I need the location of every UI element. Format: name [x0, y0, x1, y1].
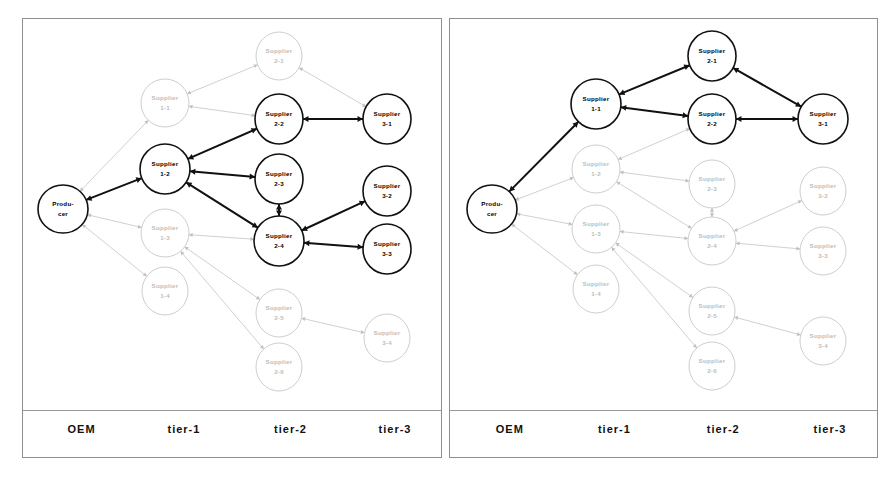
node-label-line1: Supplier — [699, 175, 726, 182]
edge-s2-4-to-s1-3 — [620, 230, 688, 240]
node-label-line1: Supplier — [374, 110, 401, 117]
edge-s2-1-to-s1-1 — [187, 64, 257, 94]
node-s3-2[interactable]: Supplier3-2 — [363, 166, 411, 216]
edge-s2-2-to-s1-2 — [618, 128, 690, 160]
node-label-line1: Supplier — [699, 110, 726, 117]
edge-s3-1-to-s2-2 — [736, 116, 798, 122]
node-s2-2[interactable]: Supplier2-2 — [688, 94, 736, 144]
node-label-line2: 2-5 — [274, 314, 284, 321]
node-label-line1: Supplier — [374, 329, 401, 336]
node-s1-2[interactable]: Supplier1-2 — [140, 144, 190, 194]
node-s1-4[interactable]: Supplier1-4 — [573, 265, 619, 313]
node-s1-4[interactable]: Supplier1-4 — [142, 267, 188, 315]
node-label-line2: 3-1 — [382, 120, 392, 127]
edge-s2-4-to-s2-3 — [276, 204, 282, 216]
edge-s3-4-to-s2-5 — [301, 317, 364, 334]
edge-s2-3-to-s1-2 — [190, 169, 255, 180]
node-s3-2[interactable]: Supplier3-2 — [800, 167, 846, 215]
node-s3-1[interactable]: Supplier3-1 — [363, 94, 411, 144]
left-tier-axis: OEMtier-1tier-2tier-3 — [23, 410, 441, 457]
node-label-line1: Supplier — [810, 242, 837, 249]
faded-node-group: Supplier1-2Supplier1-3Supplier1-4Supplie… — [572, 145, 846, 390]
node-label-line1: Supplier — [266, 304, 293, 311]
node-label-line1: Supplier — [266, 358, 293, 365]
node-s1-1[interactable]: Supplier1-1 — [141, 79, 189, 127]
node-s1-1[interactable]: Supplier1-1 — [571, 79, 621, 129]
edge-s2-4-to-s1-2 — [616, 182, 691, 229]
right-network-svg: Supplier1-2Supplier1-3Supplier1-4Supplie… — [450, 19, 877, 457]
node-s3-4[interactable]: Supplier3-4 — [364, 314, 410, 362]
tier-label-oem: OEM — [496, 423, 524, 435]
tier-label-tier-3: tier-3 — [379, 423, 412, 435]
figure-root: Supplier1-1Supplier1-3Supplier1-4Supplie… — [0, 0, 891, 479]
node-label-line2: 2-4 — [274, 242, 284, 249]
faded-edge-group — [512, 128, 802, 348]
edge-s1-2-to-producer — [515, 177, 573, 201]
node-label-line1: Supplier — [583, 280, 610, 287]
node-label-line2: 1-3 — [160, 234, 170, 241]
node-label-line2: 3-2 — [818, 192, 828, 199]
edge-s2-6-to-s1-3 — [181, 251, 264, 349]
node-producer[interactable]: Produ-cer — [38, 185, 88, 233]
tier-label-tier-2: tier-2 — [707, 423, 740, 435]
node-s3-3[interactable]: Supplier3-3 — [800, 227, 846, 275]
edge-s2-3-to-s1-2 — [620, 171, 689, 183]
node-s1-2[interactable]: Supplier1-2 — [572, 145, 620, 193]
node-label-line2: 3-4 — [818, 342, 828, 349]
node-label-line2: 1-4 — [160, 292, 170, 299]
edge-s2-4-to-s2-3 — [710, 208, 714, 217]
node-label-line2: 3-4 — [382, 339, 392, 346]
edge-s2-6-to-s1-3 — [612, 247, 697, 348]
node-s3-1[interactable]: Supplier3-1 — [798, 94, 848, 144]
edge-s1-4-to-producer — [82, 224, 147, 276]
node-s2-4[interactable]: Supplier2-4 — [254, 216, 304, 266]
edge-s2-2-to-s1-1 — [621, 105, 688, 118]
node-s3-3[interactable]: Supplier3-3 — [363, 224, 411, 274]
edge-s1-3-to-producer — [87, 214, 141, 229]
node-label-line2: 2-2 — [274, 120, 284, 127]
node-label-line2: 2-2 — [707, 120, 717, 127]
node-producer[interactable]: Produ-cer — [467, 185, 517, 233]
node-label-line1: Produ- — [52, 200, 73, 207]
node-s2-3[interactable]: Supplier2-3 — [689, 160, 735, 208]
node-s2-6[interactable]: Supplier2-6 — [689, 342, 735, 390]
node-label-line2: 2-4 — [707, 242, 717, 249]
active-edge-group — [509, 65, 801, 192]
node-s2-4[interactable]: Supplier2-4 — [688, 217, 736, 265]
node-label-line2: 2-1 — [274, 57, 284, 64]
edge-s3-2-to-s2-4 — [302, 201, 365, 231]
edge-s1-4-to-producer — [512, 224, 578, 275]
tier-label-tier-2: tier-2 — [274, 423, 307, 435]
tier-label-tier-1: tier-1 — [598, 423, 631, 435]
node-label-line1: Supplier — [810, 332, 837, 339]
node-s2-3[interactable]: Supplier2-3 — [255, 154, 303, 204]
node-s2-5[interactable]: Supplier2-5 — [689, 287, 735, 335]
node-s2-2[interactable]: Supplier2-2 — [255, 94, 303, 144]
node-s3-4[interactable]: Supplier3-4 — [800, 317, 846, 365]
node-label-line2: 2-3 — [274, 180, 284, 187]
node-s2-1[interactable]: Supplier2-1 — [688, 31, 736, 81]
node-label-line2: 1-4 — [591, 290, 601, 297]
active-node-group: Produ-cerSupplier1-1Supplier2-1Supplier2… — [467, 31, 848, 233]
node-s2-6[interactable]: Supplier2-6 — [256, 343, 302, 391]
node-label-line1: Supplier — [810, 182, 837, 189]
node-label-line1: Supplier — [699, 302, 726, 309]
edge-s3-1-to-s2-1 — [299, 68, 366, 107]
node-s2-1[interactable]: Supplier2-1 — [256, 32, 302, 80]
node-s2-5[interactable]: Supplier2-5 — [256, 289, 302, 337]
node-label-line1: Supplier — [374, 240, 401, 247]
edge-s1-2-to-producer — [86, 177, 142, 200]
node-label-line2: 3-3 — [382, 250, 392, 257]
right-tier-axis: OEMtier-1tier-2tier-3 — [450, 410, 877, 457]
node-label-line2: 1-3 — [591, 230, 601, 237]
node-label-line1: Supplier — [266, 170, 293, 177]
edge-s2-1-to-s1-1 — [619, 65, 690, 96]
node-label-line1: Supplier — [583, 95, 610, 102]
edge-s2-2-to-s1-1 — [189, 105, 255, 117]
node-label-line1: Produ- — [481, 200, 502, 207]
node-s1-3[interactable]: Supplier1-3 — [141, 209, 189, 257]
node-label-line2: 3-3 — [818, 252, 828, 259]
node-s1-3[interactable]: Supplier1-3 — [572, 205, 620, 253]
edge-s2-2-to-s1-2 — [188, 128, 257, 159]
node-label-line2: 2-1 — [707, 57, 717, 64]
